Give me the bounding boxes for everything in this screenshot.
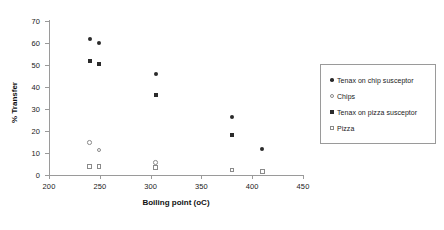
x-tick-mark (151, 175, 152, 179)
data-point (87, 164, 92, 169)
data-point (97, 164, 102, 169)
x-tick-mark (252, 175, 253, 179)
legend-item[interactable]: Tenax on chip susceptor (327, 72, 429, 88)
y-tick-mark (45, 43, 49, 44)
data-point (153, 165, 158, 170)
data-point (97, 62, 101, 66)
y-tick-label: 70 (0, 17, 40, 26)
y-axis-title: % Transfer (10, 63, 19, 143)
data-point (230, 133, 234, 137)
y-tick-mark (45, 131, 49, 132)
data-point (153, 160, 158, 165)
open-circle-icon (327, 94, 337, 98)
legend-item[interactable]: Chips (327, 88, 429, 104)
legend-item[interactable]: Tenax on pizza susceptor (327, 104, 429, 120)
x-tick-label: 400 (246, 182, 259, 191)
y-tick-mark (45, 87, 49, 88)
x-tick-label: 350 (195, 182, 208, 191)
y-axis-line (49, 20, 50, 176)
x-axis-line (49, 175, 303, 176)
data-point (97, 148, 102, 153)
y-tick-label: 50 (0, 61, 40, 70)
y-tick-mark (45, 109, 49, 110)
data-point (88, 59, 92, 63)
data-point (154, 93, 158, 97)
data-point (87, 140, 92, 145)
legend-item[interactable]: Pizza (327, 120, 429, 136)
y-tick-mark (45, 21, 49, 22)
x-tick-label: 300 (144, 182, 157, 191)
legend-item-label: Tenax on pizza susceptor (337, 109, 417, 116)
y-tick-label: 20 (0, 127, 40, 136)
data-point (230, 115, 234, 119)
data-point (97, 41, 101, 45)
x-tick-mark (100, 175, 101, 179)
open-square-icon (327, 126, 337, 130)
y-tick-mark (45, 65, 49, 66)
data-point (154, 72, 158, 76)
x-tick-mark (49, 175, 50, 179)
y-tick-mark (45, 175, 49, 176)
x-tick-label: 250 (93, 182, 106, 191)
y-tick-label: 0 (0, 171, 40, 180)
x-tick-mark (303, 175, 304, 179)
y-tick-label: 10 (0, 149, 40, 158)
x-tick-mark (201, 175, 202, 179)
y-tick-label: 30 (0, 105, 40, 114)
chart-legend: Tenax on chip susceptorChipsTenax on piz… (320, 64, 436, 144)
scatter-chart: 200250300350400450 010203040506070 Boili… (0, 0, 444, 230)
filled-square-icon (327, 110, 337, 114)
y-tick-label: 60 (0, 39, 40, 48)
data-point (260, 169, 265, 174)
filled-circle-icon (327, 78, 337, 82)
x-tick-label: 200 (43, 182, 56, 191)
legend-item-label: Tenax on chip susceptor (337, 77, 414, 84)
data-point (88, 37, 92, 41)
data-point (230, 168, 235, 173)
legend-item-label: Chips (337, 93, 355, 100)
legend-item-label: Pizza (337, 125, 354, 132)
x-axis-title: Boiling point (oC) (49, 198, 303, 207)
y-tick-label: 40 (0, 83, 40, 92)
y-tick-mark (45, 153, 49, 154)
data-point (260, 147, 264, 151)
x-tick-label: 450 (297, 182, 310, 191)
